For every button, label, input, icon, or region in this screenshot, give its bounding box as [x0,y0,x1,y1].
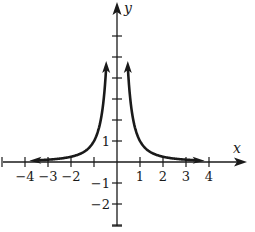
x-tick-label: 4 [205,169,213,184]
y-tick-label: −1 [91,176,110,191]
curve-right-branch [128,67,199,160]
y-tick-label: 1 [102,134,110,149]
x-tick-label: −3 [38,169,57,184]
x-tick-label: −2 [61,169,80,184]
x-tick-label: 1 [136,169,144,184]
y-axis-label: y [123,0,133,16]
x-axis-label: x [233,140,241,156]
curve-left-branch [35,67,106,160]
function-graph: −4−3−212341−1−2 x y [0,0,255,232]
axes [3,2,247,226]
x-tick-label: 2 [159,169,167,184]
x-tick-label: −4 [15,169,34,184]
x-tick-label: 3 [182,169,190,184]
y-tick-label: −2 [91,197,110,212]
tick-labels: −4−3−212341−1−2 [15,134,213,212]
